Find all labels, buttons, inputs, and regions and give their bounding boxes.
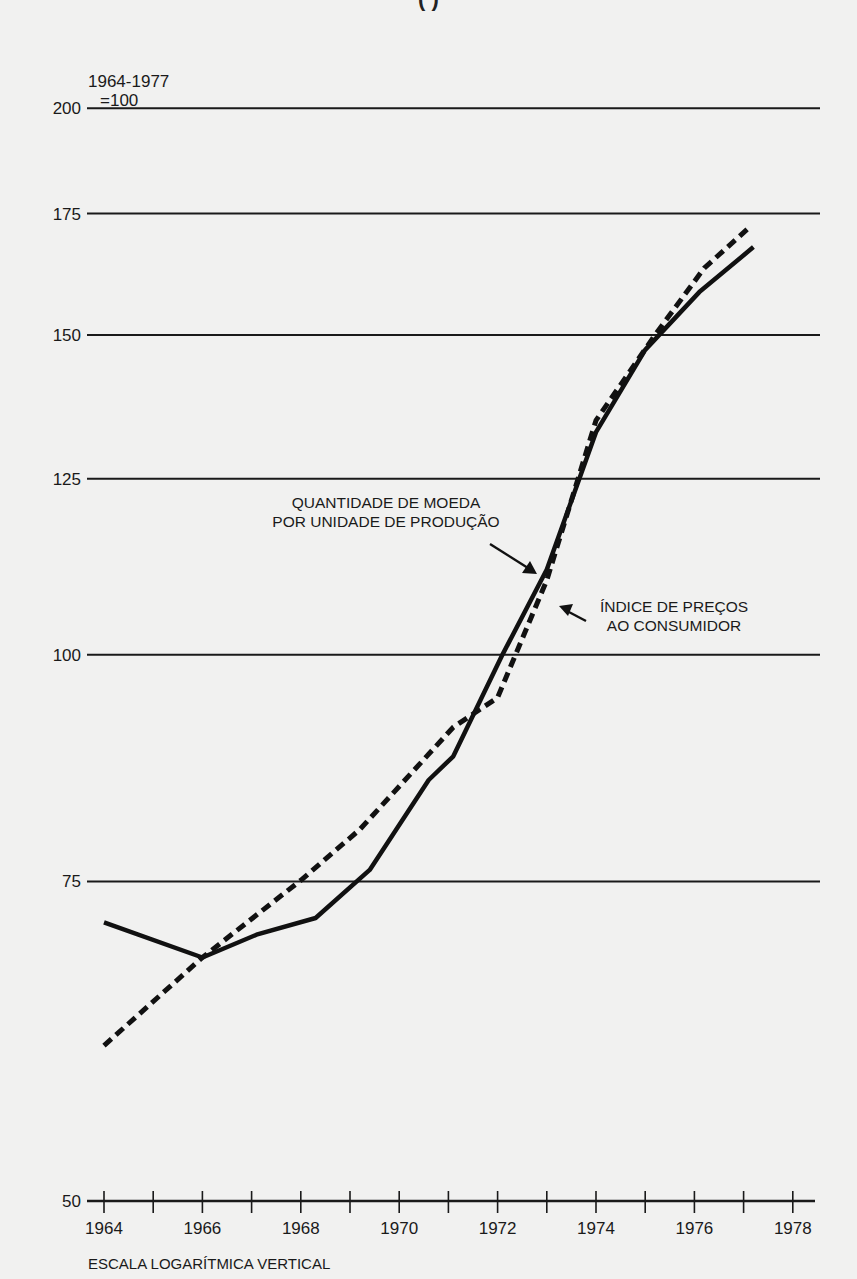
y-tick-label: 100 — [53, 646, 81, 665]
arrow-icon — [567, 611, 586, 621]
series-consumer-price-index-line — [104, 228, 749, 1046]
y-unit-label-line1: 1964-1977 — [88, 72, 169, 91]
x-tick-label: 1978 — [774, 1219, 812, 1238]
x-tick-label: 1964 — [85, 1219, 123, 1238]
y-axis-labels: 5075100125150175200 — [53, 99, 81, 1211]
x-tick-label: 1976 — [675, 1219, 713, 1238]
y-unit-label-line2: =100 — [100, 91, 138, 110]
y-tick-label: 200 — [53, 99, 81, 118]
y-tick-label: 150 — [53, 326, 81, 345]
arrowhead-icon — [522, 561, 537, 574]
annotation-cpi-line2: AO CONSUMIDOR — [607, 617, 741, 634]
annotation-money-line2: POR UNIDADE DE PRODUÇÃO — [272, 513, 499, 530]
x-tick-label: 1966 — [183, 1219, 221, 1238]
annotation-money-line1: QUANTIDADE DE MOEDA — [292, 494, 481, 511]
y-tick-label: 125 — [53, 470, 81, 489]
x-tick-label: 1970 — [380, 1219, 418, 1238]
y-tick-label: 75 — [62, 872, 81, 891]
x-tick-label: 1968 — [282, 1219, 320, 1238]
y-tick-label: 175 — [53, 205, 81, 224]
log-scale-footnote: ESCALA LOGARÍTMICA VERTICAL — [88, 1255, 330, 1272]
line-chart: 5075100125150175200 19641966196819701972… — [0, 0, 857, 1279]
annotation-consumer-price-index: ÍNDICE DE PREÇOS AO CONSUMIDOR — [559, 598, 748, 634]
x-tick-label: 1974 — [577, 1219, 615, 1238]
series-lines — [104, 228, 753, 1046]
annotation-money-per-output: QUANTIDADE DE MOEDA POR UNIDADE DE PRODU… — [272, 494, 537, 574]
x-axis: 19641966196819701972197419761978 — [85, 1191, 815, 1238]
x-tick-label: 1972 — [479, 1219, 517, 1238]
annotation-cpi-line1: ÍNDICE DE PREÇOS — [600, 598, 748, 615]
y-tick-label: 50 — [62, 1192, 81, 1211]
arrow-icon — [490, 544, 528, 568]
